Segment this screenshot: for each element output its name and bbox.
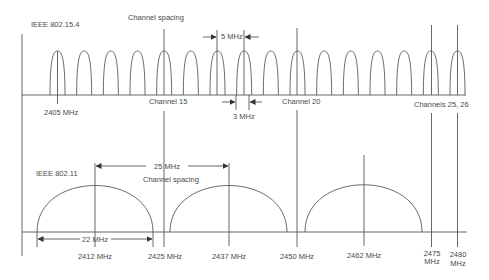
zigbee-channel-arches	[50, 51, 465, 95]
label-2437-mhz: 2437 MHz	[212, 252, 246, 261]
zigbee-channel-13-arch	[103, 51, 118, 95]
top-channel-spacing-label: Channel spacing	[128, 13, 184, 22]
ieee-802-15-4-section: IEEE 802.15.4 Channel spacing 2405 MHz C…	[22, 13, 469, 247]
label-5-mhz: 5 MHz	[221, 32, 243, 41]
label-25-mhz: 25 MHz	[154, 162, 180, 171]
label-channels-25-26: Channels 25, 26	[414, 100, 469, 109]
zigbee-channel-23-arch	[370, 51, 385, 95]
label-3-mhz: 3 MHz	[233, 112, 255, 121]
zigbee-channel-25-arch	[423, 51, 438, 95]
top-title: IEEE 802.15.4	[31, 20, 79, 29]
label-2412-mhz: 2412 MHz	[78, 252, 112, 261]
zigbee-channel-16-arch	[183, 51, 198, 95]
label-2480: 2480	[450, 250, 467, 259]
zigbee-channel-12-arch	[77, 51, 92, 95]
zigbee-channel-14-arch	[130, 51, 145, 95]
zigbee-channel-22-arch	[343, 51, 358, 95]
label-2480-unit: MHz	[450, 259, 466, 268]
zigbee-channel-20-arch	[290, 51, 305, 95]
label-22-mhz: 22 MHz	[82, 235, 108, 244]
label-2450-mhz: 2450 MHz	[280, 252, 314, 261]
wifi-channel-11-arch	[305, 185, 422, 232]
label-2405-mhz: 2405 MHz	[44, 108, 78, 117]
wifi-channel-6-arch	[170, 186, 287, 233]
bottom-title: IEEE 802.11	[36, 169, 78, 178]
zigbee-channel-19-arch	[263, 51, 278, 95]
zigbee-channel-17-arch	[210, 51, 225, 95]
label-channel-15: Channel 15	[149, 97, 187, 106]
label-2462-mhz: 2462 MHz	[347, 251, 381, 260]
zigbee-channel-21-arch	[317, 51, 332, 95]
zigbee-channel-24-arch	[397, 51, 412, 95]
label-2475-unit: MHz	[424, 257, 440, 266]
label-2425-mhz: 2425 MHz	[148, 252, 182, 261]
bottom-channel-spacing-label: Channel spacing	[143, 175, 199, 184]
channel-spectrum-diagram: IEEE 802.15.4 Channel spacing 2405 MHz C…	[0, 0, 489, 280]
ieee-802-11-section: IEEE 802.11 25 MHz Channel spacing 22 MH…	[22, 116, 467, 268]
label-channel-20: Channel 20	[282, 97, 320, 106]
